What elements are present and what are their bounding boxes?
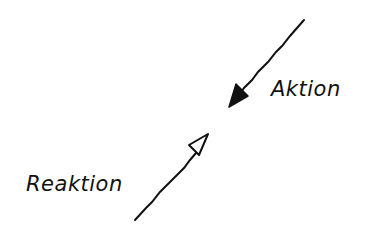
hollow-arrowhead-icon bbox=[189, 134, 208, 155]
reaction-label: Reaktion bbox=[26, 172, 123, 196]
diagram-canvas bbox=[0, 0, 392, 241]
action-label: Aktion bbox=[271, 77, 341, 101]
reaction-arrow bbox=[135, 134, 208, 220]
